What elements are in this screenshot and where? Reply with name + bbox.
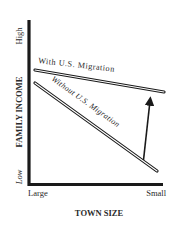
x-large-label: Large xyxy=(28,188,48,198)
y-high-label: High xyxy=(14,27,24,45)
town-size-income-diagram: High FAMILY INCOME Low Large Small TOWN … xyxy=(0,0,175,231)
arrow-up-icon xyxy=(144,101,151,160)
x-small-label: Small xyxy=(146,188,166,198)
x-axis-title: TOWN SIZE xyxy=(75,208,124,218)
without-migration-line xyxy=(35,83,157,171)
y-axis-title: FAMILY INCOME xyxy=(14,76,24,147)
y-low-label: Low xyxy=(14,169,24,185)
